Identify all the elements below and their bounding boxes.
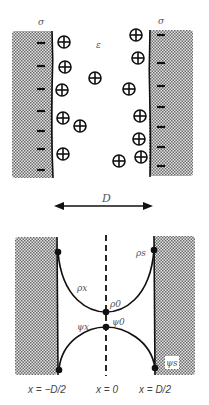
counterion-icon — [130, 29, 142, 41]
psi-0-label: ψ0 — [112, 317, 125, 327]
counterion-icon — [132, 52, 144, 64]
sigma-left-label: σ — [38, 17, 45, 27]
psi-s-label: ψs — [166, 358, 178, 368]
counterion-icon — [57, 112, 69, 124]
left-surface — [12, 31, 53, 178]
bottom-right-wall — [154, 236, 155, 375]
counterion-icon — [57, 148, 69, 160]
bottom-left-surface — [15, 237, 57, 375]
top-panel: σ σ ε — [12, 16, 193, 178]
double-layer-diagram: σ σ ε D ρx ρ0 ρs — [0, 0, 209, 405]
counterion-icon — [134, 110, 146, 122]
potential-curve — [59, 327, 155, 369]
counterion-icon — [133, 133, 145, 145]
rho-0-label: ρ0 — [109, 299, 121, 309]
x-left-label: x = −D/2 — [27, 384, 66, 395]
psi-x-label: ψx — [77, 322, 89, 332]
counterion-icon — [113, 155, 125, 167]
counterion-icon — [59, 61, 71, 73]
bottom-right-surface — [154, 236, 195, 375]
rho-x-label: ρx — [76, 283, 87, 293]
counterions — [56, 29, 147, 167]
separation-arrow: D — [54, 192, 153, 210]
bottom-panel: ρx ρ0 ρs ψx ψ0 ψs x = −D/2 x = 0 x = D/2 — [15, 235, 195, 395]
counterion-icon — [123, 83, 135, 95]
epsilon-label: ε — [96, 40, 101, 50]
right-surface — [149, 30, 193, 176]
x-center-label: x = 0 — [95, 384, 118, 395]
x-right-label: x = D/2 — [138, 384, 171, 395]
counterion-icon — [135, 151, 147, 163]
counterion-icon — [89, 72, 101, 84]
counterion-icon — [58, 36, 70, 48]
sigma-right-label: σ — [158, 16, 165, 26]
rho-s-label: ρs — [135, 248, 146, 258]
separation-label: D — [101, 192, 111, 205]
counterion-icon — [74, 120, 86, 132]
counterion-icon — [56, 84, 68, 96]
